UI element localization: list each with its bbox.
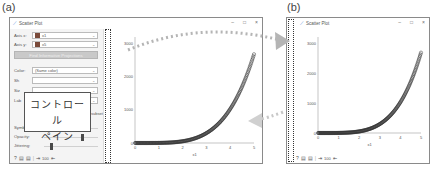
svg-text:3000: 3000 [124, 41, 134, 46]
minimize-button[interactable]: – [231, 19, 234, 25]
save-image-icon[interactable]: ▤ [19, 155, 24, 161]
svg-text:1: 1 [337, 135, 340, 140]
scatter-plot-icon: ⟋ [13, 20, 17, 27]
input-icon: ⇥ [318, 155, 322, 161]
control-pane-callout: コントロール ペイン [24, 92, 91, 132]
output-icon: ⇤ [51, 155, 55, 161]
svg-text:x1: x1 [192, 152, 197, 157]
scatter-plot-icon: ⟋ [300, 20, 304, 27]
window-title: Scatter Plot [19, 21, 42, 26]
window-controls: – □ × [398, 19, 425, 25]
panel-b-label: (b) [287, 1, 300, 13]
shape-row: Sh ⌄ [14, 77, 98, 84]
variable-type-icon [35, 42, 40, 47]
color-row: Color: (Same color) ⌄ [14, 67, 98, 74]
svg-text:5: 5 [420, 135, 423, 140]
save-image-icon[interactable]: ▤ [301, 155, 306, 161]
find-informative-projections-button[interactable]: Find Informative Projections [14, 51, 98, 59]
bottom-toolbar: ? ▤ ▤ | ⇥ 100 ⇤ [14, 155, 55, 161]
control-pane: Axis x: x1 ⌄ Axis y: x5 ⌄ Find Informati… [10, 29, 104, 163]
svg-text:3: 3 [379, 135, 382, 140]
axis-x-select[interactable]: x1 ⌄ [32, 32, 98, 39]
data-count: 100 [42, 156, 49, 161]
svg-text:x1: x1 [367, 142, 372, 147]
axis-y-value: x5 [42, 42, 46, 47]
color-label: Color: [14, 68, 32, 73]
scatter-plot-window-b: ⟋ Scatter Plot – □ × 0100020003000012345… [286, 17, 430, 164]
svg-text:0: 0 [317, 135, 320, 140]
svg-text:2: 2 [358, 135, 361, 140]
help-icon[interactable]: ? [14, 155, 17, 161]
toolbar-divider: | [315, 155, 316, 161]
help-icon[interactable]: ? [296, 155, 299, 161]
chevron-down-icon: ⌄ [92, 78, 95, 83]
close-button[interactable]: × [255, 19, 258, 25]
minimize-button[interactable]: – [398, 19, 401, 25]
chevron-down-icon: ⌄ [92, 68, 95, 73]
svg-text:5: 5 [253, 145, 256, 150]
callout-line-1: コントロール [25, 97, 90, 129]
input-icon: ⇥ [36, 155, 40, 161]
close-button[interactable]: × [422, 19, 425, 25]
axis-x-row: Axis x: x1 ⌄ [14, 32, 98, 39]
jittering-slider[interactable] [44, 146, 98, 147]
svg-text:0: 0 [134, 145, 137, 150]
report-icon[interactable]: ▤ [26, 155, 31, 161]
svg-text:3000: 3000 [307, 41, 317, 46]
splitter-handle[interactable] [105, 29, 111, 163]
svg-text:1000: 1000 [307, 101, 317, 106]
svg-text:4: 4 [229, 145, 232, 150]
chevron-down-icon: ⌄ [92, 33, 95, 38]
svg-text:3: 3 [205, 145, 208, 150]
window-controls: – □ × [231, 19, 258, 25]
chevron-down-icon: ⌄ [92, 98, 95, 103]
scatter-plot-canvas[interactable]: 0100020003000012345x1 [113, 29, 262, 163]
variable-type-icon [35, 33, 40, 38]
svg-text:4: 4 [399, 135, 402, 140]
svg-text:2000: 2000 [307, 71, 317, 76]
shape-label: Sh [14, 78, 32, 83]
svg-text:1000: 1000 [124, 107, 134, 112]
svg-text:2: 2 [181, 145, 184, 150]
title-bar: ⟋ Scatter Plot [10, 18, 262, 29]
axis-x-label: Axis x: [14, 33, 32, 38]
maximize-button[interactable]: □ [243, 19, 246, 25]
panel-a-label: (a) [2, 1, 15, 13]
data-count: 100 [324, 156, 331, 161]
axis-y-select[interactable]: x5 ⌄ [32, 41, 98, 48]
scatter-plot-canvas[interactable]: 0100020003000012345x1 [296, 29, 429, 153]
axis-y-row: Axis y: x5 ⌄ [14, 41, 98, 48]
color-value: (Same color) [35, 68, 58, 73]
maximize-button[interactable]: □ [410, 19, 413, 25]
shape-select[interactable]: ⌄ [32, 77, 98, 84]
callout-line-2: ペイン [25, 129, 90, 145]
color-select[interactable]: (Same color) ⌄ [32, 67, 98, 74]
report-icon[interactable]: ▤ [308, 155, 313, 161]
window-title: Scatter Plot [306, 21, 329, 26]
output-icon: ⇤ [333, 155, 337, 161]
axis-x-value: x1 [42, 33, 46, 38]
axis-y-label: Axis y: [14, 42, 32, 47]
svg-text:1: 1 [158, 145, 161, 150]
svg-text:2000: 2000 [124, 74, 134, 79]
chevron-down-icon: ⌄ [92, 42, 95, 47]
scatter-plot-window-a: ⟋ Scatter Plot – □ × Axis x: x1 ⌄ Axis y… [9, 17, 263, 164]
bottom-toolbar: ? ▤ ▤ | ⇥ 100 ⇤ [296, 155, 337, 161]
chevron-down-icon: ⌄ [92, 88, 95, 93]
splitter-handle[interactable] [288, 19, 294, 162]
toolbar-divider: | [33, 155, 34, 161]
